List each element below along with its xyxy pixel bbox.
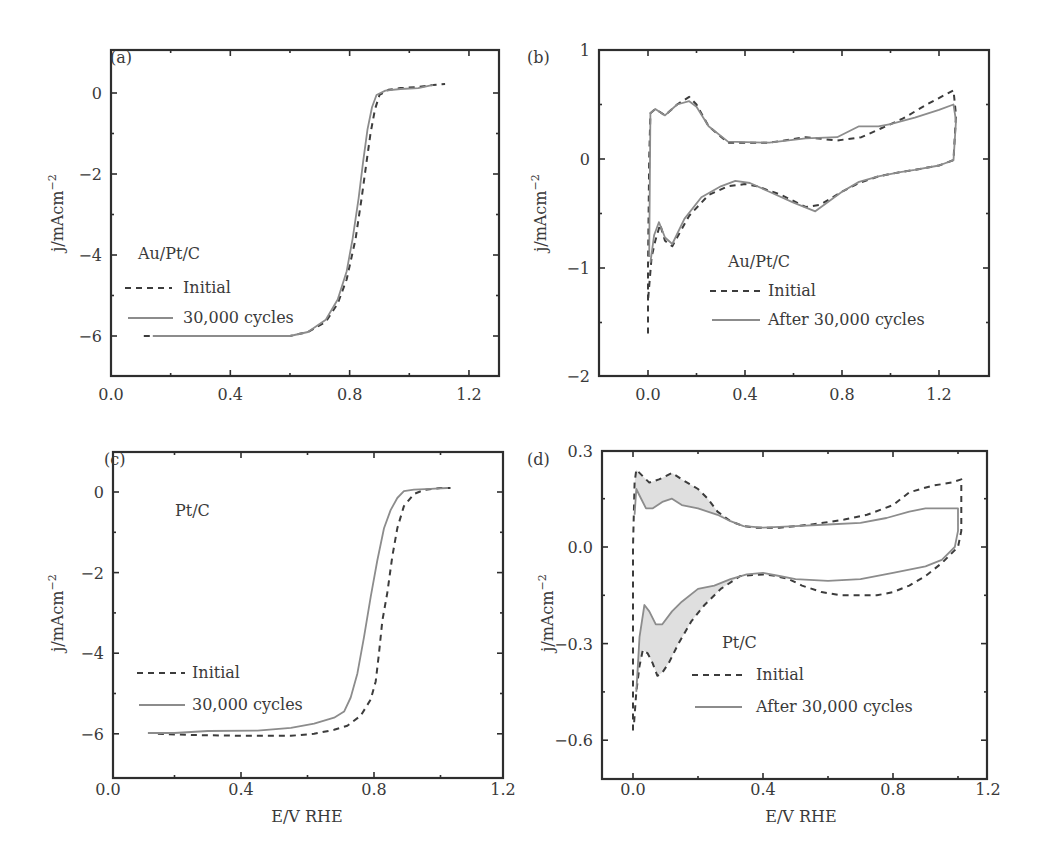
figure-container: 0.00.40.81.20−2−4−6(a)j/mAcm−2Au/Pt/CIni… (0, 0, 1037, 867)
x-tick-label: 0.8 (880, 780, 905, 799)
y-tick-label: 0.0 (568, 538, 593, 557)
x-axis-label: E/V RHE (765, 807, 836, 826)
y-tick-label: −4 (78, 246, 102, 265)
catalyst-annotation: Au/Pt/C (727, 252, 790, 271)
y-axis-label-superscript: −2 (529, 174, 542, 190)
y-tick-label: −4 (80, 644, 104, 663)
legend-label: Initial (756, 665, 804, 684)
x-tick-label: 1.2 (490, 780, 515, 799)
series-after-cycles-line (153, 85, 433, 336)
catalyst-annotation: Pt/C (722, 633, 757, 652)
legend-label: Initial (183, 278, 231, 297)
figure-svg: 0.00.40.81.20−2−4−6(a)j/mAcm−2Au/Pt/CIni… (0, 0, 1037, 867)
y-tick-label: 0.3 (568, 442, 593, 461)
y-axis-label: j/mAcm−2 (529, 174, 550, 253)
x-tick-label: 0.8 (337, 385, 362, 404)
y-tick-label: −0.6 (554, 731, 593, 750)
panel-label: (a) (110, 48, 132, 67)
plot-frame (111, 50, 499, 376)
legend: InitialAfter 30,000 cycles (710, 281, 925, 329)
x-tick-label: 0.0 (620, 780, 645, 799)
legend: InitialAfter 30,000 cycles (692, 665, 913, 716)
legend: Initial30,000 cycles (137, 663, 303, 714)
y-axis-label-superscript: −2 (536, 574, 549, 590)
y-tick-label: −2 (80, 564, 104, 583)
y-tick-label: −2 (566, 367, 590, 386)
x-tick-label: 0.0 (635, 385, 660, 404)
series-initial-line (633, 470, 961, 731)
y-tick-label: −2 (78, 165, 102, 184)
panel-b: 0.00.40.81.210−1−2(b)j/mAcm−2Au/Pt/CInit… (527, 41, 989, 404)
legend: Initial30,000 cycles (125, 278, 294, 327)
x-tick-label: 1.2 (926, 385, 951, 404)
y-axis-label: j/mAcm−2 (46, 574, 67, 653)
y-tick-label: −6 (80, 725, 104, 744)
panel-c: 0.00.40.81.20−2−4−6(c)j/mAcm−2E/V RHEPt/… (46, 450, 516, 826)
x-tick-label: 1.2 (975, 780, 1000, 799)
series-after-cycles-line (635, 489, 958, 692)
x-tick-label: 0.8 (361, 780, 386, 799)
y-tick-label: −6 (78, 327, 102, 346)
x-tick-label: 0.4 (228, 780, 253, 799)
legend-label: After 30,000 cycles (755, 697, 913, 716)
x-tick-label: 0.0 (98, 385, 123, 404)
y-tick-label: 1 (580, 41, 590, 60)
y-axis-label: j/mAcm−2 (536, 574, 557, 653)
x-tick-label: 1.2 (456, 385, 481, 404)
panel-label: (b) (527, 48, 550, 67)
catalyst-annotation: Au/Pt/C (137, 244, 200, 263)
legend-label: Initial (768, 281, 816, 300)
legend-label: 30,000 cycles (192, 695, 303, 714)
y-axis-label-superscript: −2 (46, 174, 59, 190)
y-tick-label: −0.3 (554, 635, 593, 654)
y-tick-label: 0 (94, 483, 104, 502)
series-initial-line (144, 84, 445, 336)
plot-frame (113, 452, 503, 778)
x-tick-label: 0.8 (829, 385, 854, 404)
y-axis-label-superscript: −2 (46, 574, 59, 590)
legend-label: Initial (192, 663, 240, 682)
x-tick-label: 0.4 (218, 385, 243, 404)
y-tick-label: 0 (92, 84, 102, 103)
y-tick-label: −1 (566, 259, 590, 278)
y-axis-label: j/mAcm−2 (46, 174, 67, 253)
panel-label: (d) (527, 450, 550, 469)
series-after-cycles-line (649, 101, 956, 262)
panel-label: (c) (104, 450, 125, 469)
x-axis-label: E/V RHE (271, 807, 342, 826)
panel-a: 0.00.40.81.20−2−4−6(a)j/mAcm−2Au/Pt/CIni… (46, 48, 499, 404)
x-tick-label: 0.0 (95, 780, 120, 799)
legend-label: After 30,000 cycles (767, 310, 925, 329)
legend-label: 30,000 cycles (183, 308, 294, 327)
panel-d: 0.00.40.81.20.30.0−0.3−0.6(d)j/mAcm−2E/V… (527, 442, 1001, 826)
catalyst-annotation: Pt/C (175, 501, 210, 520)
x-tick-label: 0.4 (750, 780, 775, 799)
x-tick-label: 0.4 (732, 385, 757, 404)
y-tick-label: 0 (580, 150, 590, 169)
